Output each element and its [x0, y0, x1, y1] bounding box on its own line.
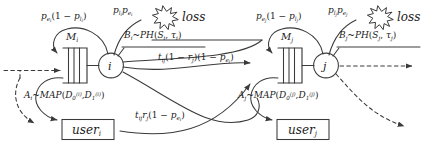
feedback-arc-j [269, 28, 323, 54]
loss-prob-label-j: pljpej [328, 6, 347, 17]
user-label-i-sub: i [99, 129, 101, 138]
loss-label-i: loss [182, 10, 205, 24]
queue-label-j-text: M [281, 31, 291, 42]
queue-label-i: Mi [66, 32, 78, 43]
queue-label-j: Mj [281, 32, 293, 43]
service-time-label-i: Bi~PH(Si, τi) [124, 31, 181, 41]
service-tick-i [118, 48, 124, 56]
diagram-canvas: i j Mi Mj useri userj loss loss pei(1 − … [0, 0, 426, 152]
queue-label-j-sub: j [291, 36, 293, 43]
user-label-i-text: user [72, 123, 99, 137]
loss-label-j: loss [397, 10, 420, 24]
node-label-i: i [108, 60, 112, 73]
queue-box-i [63, 48, 87, 83]
route-bottom-label: tijrj(1 − pei) [135, 111, 185, 122]
user-label-j-sub: j [315, 129, 317, 138]
loss-starburst-j [367, 6, 393, 30]
feedback-arc-i [54, 28, 108, 54]
arrival-process-label-j: Aj~MAP(D0(j),D1(j)) [238, 91, 318, 101]
node-label-j: j [323, 60, 326, 73]
user-label-i: useri [72, 123, 101, 138]
route-top-label: tij(1 − rj)(1 − pei) [158, 53, 234, 64]
queue-box-j [278, 48, 302, 83]
feedback-prob-label-j: pej(1 − plj) [256, 12, 301, 23]
queue-label-i-text: M [66, 31, 76, 42]
service-tick-j [333, 48, 339, 56]
loss-starburst-i [152, 6, 178, 30]
user-label-j-text: user [288, 123, 315, 137]
departure-dashed-lower-j [336, 74, 404, 126]
service-time-label-j: Bj~PH(Sj, τj) [339, 31, 396, 41]
feedback-prob-label-i: pei(1 − pli) [41, 12, 87, 23]
loss-prob-label-i: plipei [113, 6, 133, 17]
route-bottom-to-queue-j [120, 84, 250, 134]
queue-label-i-sub: i [76, 36, 78, 43]
arrival-process-label-i: Ai~MAP(D0(i),D1(i)) [24, 91, 105, 101]
user-label-j: userj [288, 123, 317, 138]
